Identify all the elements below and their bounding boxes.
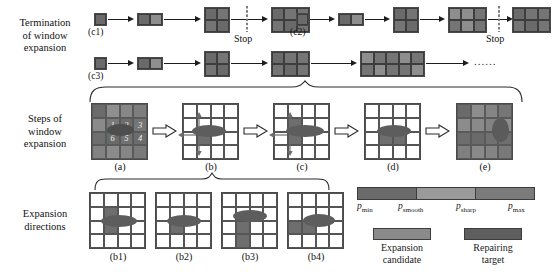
grid-cell xyxy=(457,104,471,118)
grid-cell xyxy=(351,14,363,25)
c2-arrow-1-head xyxy=(329,16,335,22)
grid-cell xyxy=(150,14,162,25)
c2-arrow-1 xyxy=(310,19,330,20)
c1-arrow-1-head xyxy=(128,16,134,22)
grid-cell xyxy=(284,52,296,64)
legend-swatch-repairing-target xyxy=(464,228,522,240)
row-label-steps-l2: window xyxy=(2,126,88,139)
grid-cell xyxy=(399,64,412,76)
grid-cell xyxy=(284,8,296,20)
grid-cell xyxy=(302,234,316,248)
grid-cell xyxy=(120,145,134,159)
grid-cell xyxy=(411,64,424,76)
c2-arrow-3-head xyxy=(439,16,445,22)
big-arrow-b-c xyxy=(243,124,268,138)
grid-cell xyxy=(449,20,461,32)
grid-cell xyxy=(471,104,485,118)
legend-label-repairing-target-l1: Repairing xyxy=(453,242,533,254)
directions-panel-b2-caption: (b2) xyxy=(162,251,206,262)
grid-cell xyxy=(386,52,399,64)
grid-cell xyxy=(90,193,104,207)
big-arrow-d-e xyxy=(425,124,450,138)
c1-stage-3 xyxy=(204,7,230,33)
grid-cell xyxy=(513,8,525,20)
row-label-steps-l3: expansion xyxy=(2,138,88,151)
grid-cell xyxy=(120,104,134,118)
c1-arrow-2 xyxy=(164,19,196,20)
grid-cell xyxy=(525,20,537,32)
grid-cell xyxy=(104,234,118,248)
grid-cell xyxy=(288,207,302,221)
grid-cell xyxy=(250,221,264,235)
grid-cell xyxy=(104,193,118,207)
grid-cell xyxy=(92,118,106,132)
grid-cell-filled xyxy=(236,221,250,235)
c2-stage-1 xyxy=(296,13,309,26)
legend-label-expansion-candidate-l1: Expansion xyxy=(362,242,442,254)
grid-cell xyxy=(118,193,132,207)
grid-cell xyxy=(205,8,217,20)
grid-cell xyxy=(95,14,106,25)
c3-arrow-5 xyxy=(426,63,464,64)
colorbar-tick-pmin: pmin xyxy=(357,201,373,214)
figure-window-expansion: Termination of window expansion Steps of… xyxy=(0,0,554,278)
grid-cell xyxy=(284,64,296,76)
grid-cell xyxy=(379,145,393,159)
row-label-termination-l1: Termination xyxy=(2,17,88,30)
c1-stage-1 xyxy=(94,13,107,26)
grid-cell xyxy=(365,145,379,159)
colorbar-tick-pmax-sub: max xyxy=(513,206,525,214)
c2-arrow-2 xyxy=(365,19,385,20)
legend-swatch-expansion-candidate xyxy=(373,228,431,240)
grid-cell xyxy=(272,20,284,32)
c3-stage-5 xyxy=(360,51,425,77)
grid-cell xyxy=(150,58,162,69)
grid-cell-filled xyxy=(236,234,250,248)
grid-cell xyxy=(302,193,316,207)
grid-cell xyxy=(263,221,277,235)
c2-stage-4 xyxy=(448,7,487,33)
grid-cell xyxy=(316,193,330,207)
c3-stage-4 xyxy=(271,51,310,77)
grid-cell xyxy=(485,104,499,118)
grid-cell xyxy=(329,193,343,207)
c2-stage-3 xyxy=(393,7,419,33)
cell-number-3: 3 xyxy=(133,118,147,132)
grid-cell xyxy=(197,234,211,248)
grid-cell xyxy=(297,52,309,64)
colorbar-tick-psmooth: psmooth xyxy=(398,201,423,214)
grid-cell xyxy=(386,64,399,76)
grid-cell xyxy=(513,20,525,32)
grid-cell xyxy=(393,145,407,159)
row-label-directions: Expansion directions xyxy=(2,208,88,233)
c1-arrow-1 xyxy=(108,19,129,20)
grid-cell xyxy=(406,20,418,32)
grid-cell xyxy=(457,118,471,132)
row-label-steps: Steps of window expansion xyxy=(2,113,88,151)
colorbar-segment-min-smooth xyxy=(358,188,417,199)
c1-caption: (c1) xyxy=(88,27,103,37)
c3-arrow-3 xyxy=(231,63,263,64)
grid-cell xyxy=(222,221,236,235)
c2-stop-label: Stop xyxy=(486,33,504,44)
grid-cell xyxy=(205,64,217,76)
grid-cell xyxy=(498,104,512,118)
c3-arrow-4 xyxy=(311,63,352,64)
grid-cell xyxy=(92,104,106,118)
grid-cell xyxy=(406,8,418,20)
grid-cell xyxy=(361,64,374,76)
grid-cell xyxy=(471,118,485,132)
grid-cell xyxy=(498,145,512,159)
grid-cell xyxy=(329,234,343,248)
grid-cell xyxy=(250,193,264,207)
grid-cell xyxy=(457,145,471,159)
grid-cell xyxy=(236,193,250,207)
directions-panel-b4-caption: (b4) xyxy=(294,251,338,262)
steps-panel-b-caption: (b) xyxy=(190,161,232,172)
legend-label-repairing-target-l2: target xyxy=(453,254,533,266)
grid-cell xyxy=(222,234,236,248)
grid-cell xyxy=(92,145,106,159)
colorbar-tick-psharp: psharp xyxy=(456,201,476,214)
c1-arrow-3-head xyxy=(262,16,268,22)
grid-cell xyxy=(217,64,229,76)
